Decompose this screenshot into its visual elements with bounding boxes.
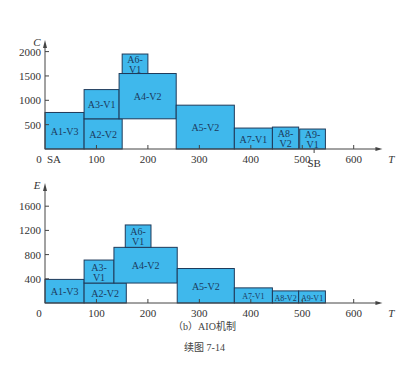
- marker-sa: SA: [47, 153, 61, 165]
- block-label: V1: [93, 272, 105, 283]
- x-axis-arrow-icon: [375, 147, 382, 151]
- block-label: A1-V3: [51, 126, 79, 137]
- block-label: A8-V2: [274, 294, 296, 303]
- y-tick-label: 2000: [19, 46, 42, 58]
- block-label: V1: [306, 139, 318, 150]
- y-axis-arrow-icon: [43, 40, 47, 48]
- block-label: A1-V3: [51, 286, 79, 297]
- block-label: V1: [129, 64, 141, 75]
- y-tick-label: 1600: [19, 200, 42, 212]
- y-tick-label: 1000: [19, 94, 42, 106]
- block-label: A7-V1: [242, 292, 264, 301]
- x-tick-label: 200: [140, 153, 157, 165]
- block-label: A4-V2: [134, 91, 162, 102]
- y-tick-label: 1500: [19, 70, 42, 82]
- x-tick-label: 100: [88, 153, 105, 165]
- block-label: A3-V1: [88, 99, 116, 110]
- y-tick-label: 400: [25, 273, 42, 285]
- x-axis-arrow-icon: [375, 301, 382, 305]
- block-label: A2-V2: [91, 288, 119, 299]
- y-tick-label: 1200: [19, 224, 42, 236]
- figure-caption: 续图 7-14: [0, 339, 409, 354]
- y-tick-label: 800: [25, 249, 42, 261]
- x-tick-label: 0: [36, 153, 42, 165]
- block-label: V2: [279, 138, 291, 149]
- block-label: A2-V2: [89, 129, 117, 140]
- block-label: A9-V1: [301, 294, 323, 303]
- subfigure-caption: （b）AIO机制: [0, 318, 409, 333]
- block-label: A5-V2: [191, 122, 219, 133]
- y-tick-label: 500: [25, 119, 42, 131]
- y-axis-label: E: [33, 179, 41, 191]
- x-tick-label: 300: [191, 153, 208, 165]
- x-axis-label: T: [388, 153, 395, 165]
- block-label: V1: [132, 236, 144, 247]
- marker-sb: SB: [307, 157, 320, 169]
- block-label: A4-V2: [132, 260, 160, 271]
- block-label: A5-V2: [192, 281, 220, 292]
- block-label: A7-V1: [239, 134, 267, 145]
- x-tick-label: 400: [243, 153, 260, 165]
- y-axis-arrow-icon: [43, 183, 47, 191]
- x-tick-label: 600: [345, 153, 362, 165]
